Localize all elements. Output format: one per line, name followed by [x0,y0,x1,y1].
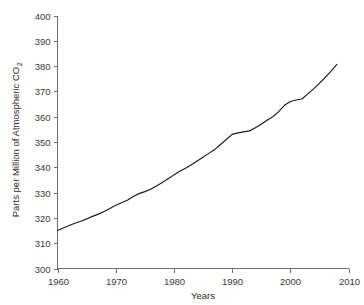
y-tick-label: 330 [35,188,51,199]
y-tick-label: 360 [35,112,51,123]
y-axis-title-text: Parts per Million of Atmospheric CO [10,67,21,217]
y-tick-label: 300 [35,264,51,275]
y-tick-label: 310 [35,238,51,249]
x-axis-title: Years [191,290,215,301]
y-tick-label: 370 [35,86,51,97]
co2-line-chart: 300310320330340350360370380390400 196019… [0,0,364,305]
chart-container: 300310320330340350360370380390400 196019… [0,0,364,305]
y-tick-label: 340 [35,162,51,173]
co2-data-line [58,64,337,230]
y-tick-label: 320 [35,213,51,224]
x-tick-label: 1960 [48,276,69,287]
y-axis-title-subscript: 2 [16,62,23,66]
x-tick-label: 1970 [106,276,127,287]
y-axis-tick-labels: 300310320330340350360370380390400 [35,11,51,275]
y-tick-label: 390 [35,36,51,47]
y-axis-title: Parts per Million of Atmospheric CO 2 [10,62,23,217]
x-tick-label: 1990 [222,276,243,287]
y-tick-label: 380 [35,61,51,72]
x-tick-label: 2010 [339,276,360,287]
y-axis-ticks [54,17,58,270]
x-tick-label: 1980 [164,276,185,287]
y-tick-label: 400 [35,11,51,22]
y-tick-label: 350 [35,137,51,148]
x-tick-label: 2000 [280,276,301,287]
x-axis-tick-labels: 196019701980199020002010 [48,276,360,287]
x-axis-ticks [59,269,350,273]
